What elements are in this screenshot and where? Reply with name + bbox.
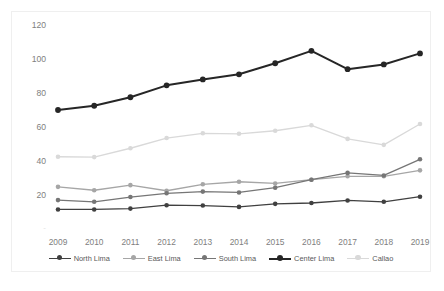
- data-point-marker: [56, 207, 61, 212]
- x-axis-tick-label: 2009: [49, 237, 68, 247]
- data-point-marker: [381, 62, 387, 68]
- legend-item-center-lima[interactable]: Center Lima: [269, 254, 334, 263]
- data-point-marker: [417, 50, 423, 56]
- data-point-marker: [273, 202, 278, 207]
- x-axis-tick-label: 2013: [193, 237, 212, 247]
- x-axis-tick-label: 2018: [374, 237, 393, 247]
- legend-item-north-lima[interactable]: North Lima: [49, 254, 110, 263]
- x-axis-tick-label: 2016: [302, 237, 321, 247]
- data-point-marker: [128, 206, 133, 211]
- chart-canvas: -204060801001202009201020112012201320142…: [12, 12, 430, 271]
- data-point-marker: [345, 66, 351, 72]
- data-point-marker: [237, 179, 242, 184]
- data-point-marker: [164, 191, 169, 196]
- data-point-marker: [345, 198, 350, 203]
- data-point-marker: [273, 185, 278, 190]
- series-line: [58, 51, 420, 110]
- data-point-marker: [237, 205, 242, 210]
- data-point-marker: [418, 168, 423, 173]
- data-point-marker: [128, 183, 133, 188]
- x-axis-tick-label: 2012: [157, 237, 176, 247]
- x-axis-tick-label: 2017: [338, 237, 357, 247]
- legend-swatch-icon: [269, 254, 291, 263]
- y-axis-tick-label: 120: [32, 20, 47, 30]
- x-axis-tick-label: 2019: [411, 237, 430, 247]
- series-north-lima: [56, 194, 423, 211]
- data-point-marker: [92, 155, 97, 160]
- data-point-marker: [128, 195, 133, 200]
- data-point-marker: [237, 132, 242, 137]
- y-axis-tick-label: 20: [36, 190, 46, 200]
- x-axis-tick-label: 2010: [85, 237, 104, 247]
- legend-item-east-lima[interactable]: East Lima: [123, 254, 181, 263]
- data-point-marker: [201, 203, 206, 208]
- y-axis-tick-label: -: [43, 223, 46, 232]
- data-point-marker: [309, 48, 315, 54]
- legend-label: East Lima: [147, 254, 181, 263]
- legend-label: South Lima: [218, 254, 256, 263]
- data-point-marker: [92, 207, 97, 212]
- y-axis-tick-label: 80: [36, 88, 46, 98]
- x-axis-tick-label: 2011: [121, 237, 139, 247]
- series-center-lima: [55, 48, 423, 113]
- chart-legend: North LimaEast LimaSouth LimaCenter Lima…: [11, 250, 431, 266]
- data-point-marker: [309, 177, 314, 182]
- data-point-marker: [55, 107, 61, 113]
- data-point-marker: [309, 123, 314, 128]
- data-point-marker: [345, 137, 350, 142]
- legend-item-callao[interactable]: Callao: [347, 254, 393, 263]
- data-point-marker: [273, 128, 278, 133]
- x-axis-tick-label: 2014: [230, 237, 249, 247]
- data-point-marker: [237, 190, 242, 195]
- legend-label: North Lima: [73, 254, 110, 263]
- data-point-marker: [201, 182, 206, 187]
- legend-label: Callao: [371, 254, 393, 263]
- legend-label: Center Lima: [293, 254, 334, 263]
- data-point-marker: [418, 157, 423, 162]
- data-point-marker: [164, 203, 169, 208]
- data-point-marker: [236, 71, 242, 77]
- legend-swatch-icon: [347, 254, 369, 263]
- data-point-marker: [418, 194, 423, 199]
- data-point-marker: [382, 143, 387, 148]
- legend-swatch-icon: [49, 254, 71, 263]
- legend-item-south-lima[interactable]: South Lima: [194, 254, 256, 263]
- data-point-marker: [164, 82, 170, 88]
- data-point-marker: [418, 122, 423, 127]
- legend-swatch-icon: [123, 254, 145, 263]
- data-point-marker: [164, 136, 169, 141]
- data-point-marker: [382, 200, 387, 205]
- data-point-marker: [92, 200, 97, 205]
- series-east-lima: [56, 168, 423, 193]
- y-axis-tick-label: 40: [36, 156, 46, 166]
- x-axis-tick-label: 2015: [266, 237, 285, 247]
- data-point-marker: [201, 189, 206, 194]
- data-point-marker: [92, 188, 97, 193]
- data-point-marker: [56, 154, 61, 159]
- data-point-marker: [128, 146, 133, 151]
- series-callao: [56, 122, 423, 160]
- series-line: [58, 124, 420, 157]
- data-point-marker: [128, 94, 134, 100]
- legend-swatch-icon: [194, 254, 216, 263]
- data-point-marker: [309, 201, 314, 206]
- data-point-marker: [91, 103, 97, 109]
- data-point-marker: [272, 60, 278, 66]
- data-point-marker: [201, 131, 206, 136]
- data-point-marker: [345, 171, 350, 176]
- data-point-marker: [56, 185, 61, 190]
- data-point-marker: [56, 198, 61, 203]
- data-point-marker: [200, 77, 206, 83]
- data-point-marker: [382, 173, 387, 178]
- data-point-marker: [273, 181, 278, 186]
- plot-area-frame: -204060801001202009201020112012201320142…: [11, 11, 431, 272]
- line-chart-figure: -204060801001202009201020112012201320142…: [0, 0, 444, 291]
- y-axis-tick-label: 100: [32, 54, 47, 64]
- y-axis-tick-label: 60: [36, 122, 46, 132]
